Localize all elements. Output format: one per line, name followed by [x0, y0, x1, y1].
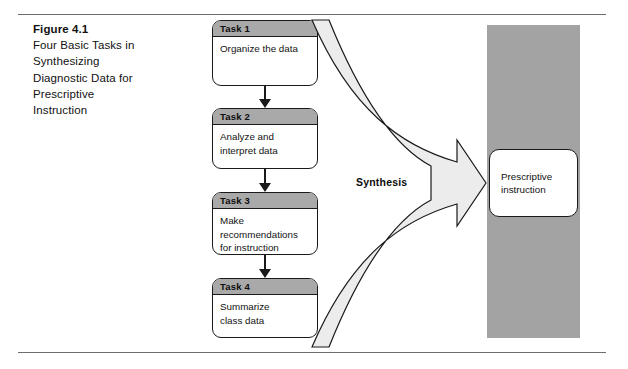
arrow-head	[259, 99, 271, 108]
arrow-stem	[264, 255, 266, 269]
task-box-2-header: Task 2	[213, 109, 317, 125]
task-box-3-body: Make recommendations for instruction	[213, 209, 317, 255]
arrow-head	[259, 269, 271, 278]
arrow-stem	[264, 169, 266, 183]
figure-page: Figure 4.1 Four Basic Tasks in Synthesiz…	[0, 0, 628, 369]
down-arrow-icon-task2-task3	[259, 169, 272, 192]
task-box-4: Task 4 Summarize class data	[212, 278, 318, 338]
task-box-4-body: Summarize class data	[213, 295, 317, 327]
synthesis-label: Synthesis	[356, 176, 407, 188]
outcome-box: Prescriptive instruction	[489, 149, 578, 217]
task-box-1-body: Organize the data	[213, 37, 317, 56]
down-arrow-icon-task3-task4	[259, 255, 272, 278]
figure-caption-title: Figure 4.1	[33, 21, 193, 37]
down-arrow-icon-task1-task2	[259, 86, 272, 108]
task-box-4-header: Task 4	[213, 279, 317, 295]
task-box-1: Task 1 Organize the data	[212, 20, 318, 86]
figure-caption-body: Four Basic Tasks in Synthesizing Diagnos…	[33, 37, 193, 118]
outcome-label: Prescriptive instruction	[501, 170, 552, 197]
arrow-stem	[264, 86, 266, 99]
task-box-2: Task 2 Analyze and interpret data	[212, 108, 318, 169]
task-box-2-body: Analyze and interpret data	[213, 125, 317, 157]
task-box-1-header: Task 1	[213, 21, 317, 37]
task-box-3-header: Task 3	[213, 193, 317, 209]
task-box-3: Task 3 Make recommendations for instruct…	[212, 192, 318, 255]
figure-caption: Figure 4.1 Four Basic Tasks in Synthesiz…	[33, 21, 193, 118]
arrow-head	[259, 183, 271, 192]
